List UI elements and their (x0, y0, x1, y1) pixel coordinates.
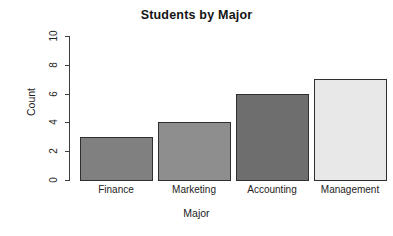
bar-chart: Students by Major Count 0246810 FinanceM… (0, 0, 393, 236)
bar (237, 95, 309, 181)
x-axis-label: Major (0, 207, 393, 219)
y-axis-ticks (65, 37, 70, 181)
y-axis-tick-label: 8 (49, 57, 59, 73)
y-axis-tick-label: 2 (49, 143, 59, 159)
y-axis-tick-label: 6 (49, 86, 59, 102)
bar (81, 138, 153, 181)
bar (315, 80, 387, 181)
y-axis-tick-label: 10 (49, 28, 59, 44)
y-axis-tick-label: 0 (49, 172, 59, 188)
bar (159, 123, 231, 181)
y-axis-tick-label: 4 (49, 114, 59, 130)
x-axis-tick-label: Management (314, 184, 386, 196)
x-axis-tick-label: Finance (80, 184, 152, 196)
x-axis-tick-label: Accounting (236, 184, 308, 196)
bars-group (81, 80, 387, 181)
x-axis-tick-label: Marketing (158, 184, 230, 196)
